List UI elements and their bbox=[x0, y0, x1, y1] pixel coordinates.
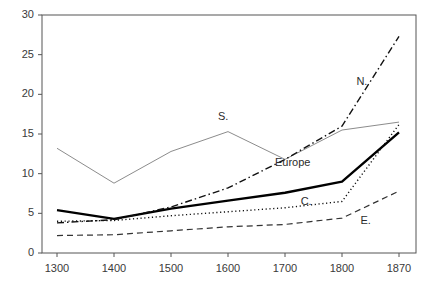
y-axis-tick-label: 5 bbox=[8, 206, 34, 218]
series-line-s bbox=[57, 122, 399, 183]
series-label-e: E. bbox=[361, 214, 371, 226]
series-line-europe bbox=[57, 132, 399, 218]
y-axis-tick-label: 30 bbox=[8, 8, 34, 20]
x-axis-tick-label: 1700 bbox=[265, 262, 305, 274]
y-axis-tick-label: 25 bbox=[8, 48, 34, 60]
series-line-e bbox=[57, 191, 399, 235]
x-axis-tick-label: 1600 bbox=[208, 262, 248, 274]
y-axis-tick-label: 20 bbox=[8, 87, 34, 99]
series-line-c bbox=[57, 124, 399, 221]
y-axis-tick-label: 0 bbox=[8, 246, 34, 258]
x-axis-tick-label: 1800 bbox=[322, 262, 362, 274]
y-axis-tick-label: 15 bbox=[8, 127, 34, 139]
y-axis-tick-label: 10 bbox=[8, 167, 34, 179]
x-axis-tick-label: 1400 bbox=[94, 262, 134, 274]
chart-container: 0510152025301300140015001600170018001870… bbox=[0, 0, 432, 283]
series-label-n: N. bbox=[356, 75, 367, 87]
line-chart-plot bbox=[0, 0, 432, 283]
series-label-europe: Europe bbox=[275, 156, 310, 168]
x-axis-tick-label: 1300 bbox=[37, 262, 77, 274]
series-label-c: C. bbox=[301, 195, 312, 207]
series-label-s: S. bbox=[218, 110, 228, 122]
x-axis-tick-label: 1870 bbox=[379, 262, 419, 274]
x-axis-tick-label: 1500 bbox=[151, 262, 191, 274]
